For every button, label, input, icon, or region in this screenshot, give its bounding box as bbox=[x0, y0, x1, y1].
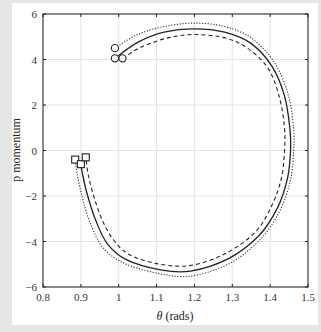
x-tick-label: 1.3 bbox=[225, 291, 239, 303]
end-square-marker bbox=[77, 161, 84, 168]
y-tick-label: 2 bbox=[32, 99, 38, 111]
x-tick-label: 1.1 bbox=[150, 291, 164, 303]
y-tick-label: 0 bbox=[32, 145, 38, 157]
x-tick-labels: 0.80.911.11.21.31.41.5 bbox=[36, 291, 315, 303]
x-tick-label: 1 bbox=[116, 291, 122, 303]
x-tick-label: 0.8 bbox=[36, 291, 50, 303]
y-axis-label: p momentum bbox=[9, 118, 23, 182]
trajectory-dotted-line bbox=[75, 23, 294, 277]
y-tick-label: 4 bbox=[32, 54, 38, 66]
y-tick-labels: −6−4−20246 bbox=[25, 8, 37, 293]
start-circle-marker bbox=[111, 45, 118, 52]
y-tick-label: −2 bbox=[25, 190, 37, 202]
end-square-marker bbox=[82, 154, 89, 161]
x-tick-label: 0.9 bbox=[74, 291, 88, 303]
y-tick-label: 6 bbox=[32, 8, 38, 20]
trajectory-markers bbox=[72, 45, 126, 168]
y-tick-label: −4 bbox=[25, 236, 37, 248]
start-circle-marker bbox=[111, 55, 118, 62]
theta-symbol: θ bbox=[157, 309, 163, 323]
x-tick-label: 1.4 bbox=[263, 291, 277, 303]
start-circle-marker bbox=[119, 55, 126, 62]
x-axis-label: θ(rads) bbox=[157, 309, 194, 323]
y-tick-label: −6 bbox=[25, 281, 37, 293]
x-axis-unit: (rads) bbox=[165, 309, 193, 323]
x-tick-label: 1.2 bbox=[188, 291, 202, 303]
x-tick-label: 1.5 bbox=[301, 291, 315, 303]
phase-portrait-chart: 0.80.911.11.21.31.41.5 −6−4−20246 θ(rads… bbox=[0, 0, 321, 332]
trajectory-curves bbox=[75, 23, 294, 277]
